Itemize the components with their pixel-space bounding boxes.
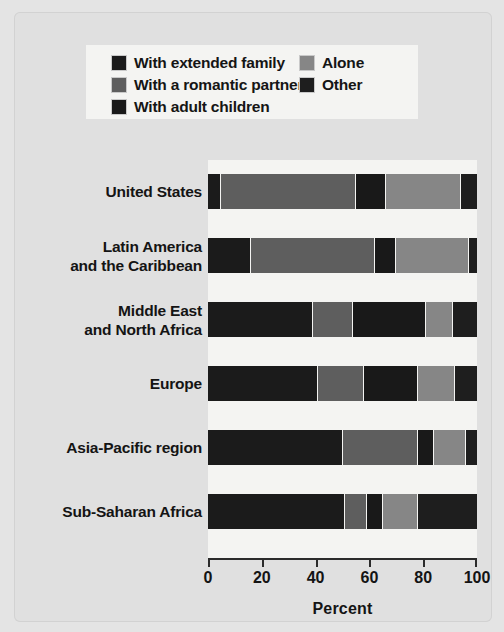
legend-column-left: With extended familyWith a romantic part… [112,52,303,118]
legend-swatch-romantic-partner [112,78,126,92]
bar-segment[interactable] [396,238,469,273]
category-label-line: and the Caribbean [26,256,202,275]
bar-row [208,494,477,529]
chart-panel: With extended familyWith a romantic part… [14,12,492,622]
category-label: Latin Americaand the Caribbean [26,237,202,275]
category-label-line: Latin America [26,237,202,256]
value-axis-line: 020406080100 [208,558,477,560]
axis-tick-label: 60 [360,569,378,587]
legend-entry-label: With a romantic partner [134,76,303,94]
category-label-line: Asia-Pacific region [26,438,202,457]
axis-tick [369,558,371,567]
legend-entry-label: Other [322,76,362,94]
bar-segment[interactable] [453,302,477,337]
bar-segment[interactable] [208,366,318,401]
category-label-line: and North Africa [26,320,202,339]
bar-segment[interactable] [313,302,353,337]
legend-swatch-alone [300,56,314,70]
category-label: Asia-Pacific region [26,438,202,457]
bar-segment[interactable] [208,174,221,209]
bar-segment[interactable] [345,494,367,529]
axis-tick-label: 0 [204,569,213,587]
legend-entry[interactable]: With extended family [112,52,303,73]
category-axis-labels: United StatesLatin Americaand the Caribb… [22,160,202,558]
bar-row [208,430,477,465]
category-label-line: Middle East [26,301,202,320]
bar-segment[interactable] [466,430,477,465]
bar-segment[interactable] [221,174,356,209]
bar-segment[interactable] [383,494,418,529]
bar-segment[interactable] [386,174,461,209]
bar-segment[interactable] [364,366,418,401]
bar-segment[interactable] [455,366,477,401]
axis-tick [208,558,210,567]
axis-tick [316,558,318,567]
plot-area [208,160,477,558]
legend-swatch-other [300,78,314,92]
axis-tick-label: 80 [414,569,432,587]
category-label-line: United States [26,182,202,201]
chart-legend: With extended familyWith a romantic part… [86,45,418,119]
bar-segment[interactable] [418,366,456,401]
bar-segment[interactable] [208,302,313,337]
category-label-line: Sub-Saharan Africa [26,502,202,521]
bar-segment[interactable] [208,430,343,465]
category-label: Europe [26,374,202,393]
axis-tick-label: 40 [307,569,325,587]
bar-segment[interactable] [418,494,477,529]
bar-segment[interactable] [356,174,386,209]
bar-segment[interactable] [426,302,453,337]
bar-segment[interactable] [208,494,345,529]
category-label: United States [26,182,202,201]
axis-tick [475,558,477,567]
bar-row [208,174,477,209]
legend-entry[interactable]: With a romantic partner [112,74,303,95]
bar-row [208,366,477,401]
bar-segment[interactable] [353,302,426,337]
bar-segment[interactable] [434,430,466,465]
category-label: Sub-Saharan Africa [26,502,202,521]
bar-row [208,238,477,273]
category-label-line: Europe [26,374,202,393]
legend-entry-label: Alone [322,54,364,72]
bar-segment[interactable] [461,174,477,209]
axis-tick [423,558,425,567]
bar-segment[interactable] [418,430,434,465]
bar-segment[interactable] [208,238,251,273]
axis-tick-label: 20 [253,569,271,587]
bar-segment[interactable] [343,430,418,465]
chart-figure: With extended familyWith a romantic part… [0,0,504,632]
axis-tick [262,558,264,567]
legend-entry[interactable]: Alone [300,52,364,73]
bar-segment[interactable] [375,238,397,273]
bar-segment[interactable] [367,494,383,529]
legend-entry-label: With adult children [134,98,270,116]
bar-row [208,302,477,337]
axis-tick-label: 100 [464,569,491,587]
legend-column-right: AloneOther [300,52,364,96]
bar-segment[interactable] [251,238,375,273]
bar-segment[interactable] [469,238,477,273]
bar-segment[interactable] [318,366,364,401]
legend-entry-label: With extended family [134,54,285,72]
value-axis-title: Percent [208,600,477,618]
legend-swatch-adult-children [112,100,126,114]
legend-entry[interactable]: Other [300,74,364,95]
category-label: Middle Eastand North Africa [26,301,202,339]
legend-swatch-extended-family [112,56,126,70]
legend-entry[interactable]: With adult children [112,96,303,117]
